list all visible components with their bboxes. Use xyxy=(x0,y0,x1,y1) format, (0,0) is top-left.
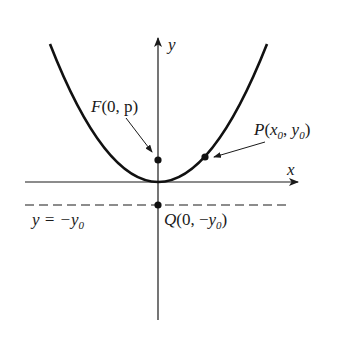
x-axis-label: x xyxy=(286,160,295,179)
p-pointer-arrow xyxy=(214,142,265,157)
focus-pointer-arrow xyxy=(126,118,152,152)
y-axis-label: y xyxy=(166,35,176,54)
point-q xyxy=(154,201,161,208)
point-q-label: Q(0, −y0) xyxy=(164,210,227,231)
focus-label: F(0, p) xyxy=(90,97,138,116)
point-p xyxy=(201,153,208,160)
focus-point xyxy=(154,156,161,163)
point-p-label: P(x0, y0) xyxy=(253,120,310,141)
diagram-canvas: y x F(0, p) P(x0, y0) y = −y0 Q(0, −y0) xyxy=(0,0,339,338)
directrix-label: y = −y0 xyxy=(30,210,85,231)
parabola-diagram: y x F(0, p) P(x0, y0) y = −y0 Q(0, −y0) xyxy=(0,0,339,338)
